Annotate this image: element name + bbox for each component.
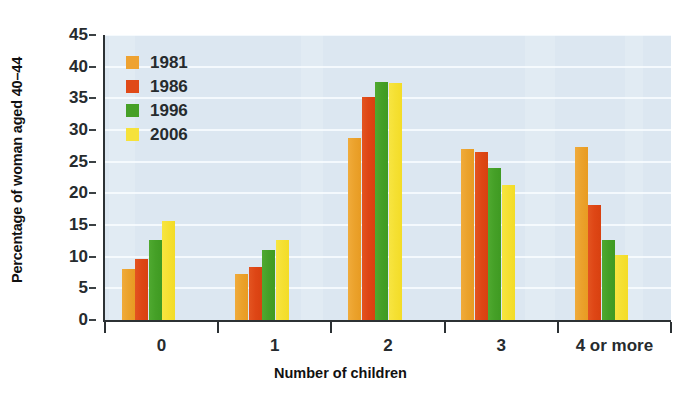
y-tick-mark <box>89 161 96 163</box>
x-tick-mark <box>217 322 219 333</box>
y-tick-label: 25 <box>69 152 88 172</box>
bar <box>362 97 375 320</box>
bar <box>615 255 628 320</box>
legend-item: 2006 <box>126 122 188 146</box>
y-axis-line <box>103 35 105 321</box>
bar-chart: Percentage of woman aged 40–44 051015202… <box>0 0 681 395</box>
x-axis-title: Number of children <box>0 365 681 381</box>
legend-swatch <box>126 104 139 117</box>
legend-swatch <box>126 80 139 93</box>
y-tick-label: 45 <box>69 25 88 45</box>
y-tick-mark <box>89 319 96 321</box>
bar <box>488 168 501 320</box>
legend-item: 1981 <box>126 50 188 74</box>
legend-item: 1986 <box>126 74 188 98</box>
x-tick-mark <box>444 322 446 333</box>
bar <box>375 82 388 320</box>
bar <box>122 269 135 320</box>
background-texture <box>525 35 555 320</box>
y-tick-mark <box>89 287 96 289</box>
y-tick-mark <box>89 66 96 68</box>
x-tick-label: 1 <box>270 336 279 356</box>
y-axis-title-text: Percentage of woman aged 40–44 <box>9 57 25 283</box>
legend-label: 1986 <box>150 78 188 95</box>
legend-swatch <box>126 128 139 141</box>
x-tick-mark <box>670 322 672 333</box>
y-tick-label: 15 <box>69 215 88 235</box>
legend-label: 1981 <box>150 54 188 71</box>
bar <box>575 147 588 320</box>
legend-swatch <box>126 56 139 69</box>
y-tick-label: 40 <box>69 57 88 77</box>
bar <box>262 250 275 320</box>
bar <box>162 221 175 320</box>
y-tick-mark <box>89 34 96 36</box>
x-tick-label: 3 <box>496 336 505 356</box>
bar <box>389 83 402 320</box>
legend-item: 1996 <box>126 98 188 122</box>
y-tick-mark <box>89 192 96 194</box>
legend-label: 2006 <box>150 126 188 143</box>
y-tick-mark <box>89 224 96 226</box>
y-tick-label: 20 <box>69 183 88 203</box>
x-tick-label: 0 <box>157 336 166 356</box>
gridline <box>105 66 671 68</box>
x-tick-label: 2 <box>383 336 392 356</box>
bar <box>502 185 515 320</box>
bar <box>249 267 262 320</box>
x-axis-line <box>103 320 671 322</box>
y-axis-ticks: 051015202530354045 <box>44 0 96 395</box>
y-axis-title: Percentage of woman aged 40–44 <box>0 0 34 340</box>
bar <box>461 149 474 320</box>
background-texture <box>301 35 323 320</box>
bar <box>135 259 148 320</box>
y-tick-label: 5 <box>79 278 88 298</box>
y-tick-mark <box>89 256 96 258</box>
x-tick-mark <box>104 322 106 333</box>
gridline <box>105 35 671 36</box>
y-tick-label: 10 <box>69 247 88 267</box>
x-tick-label: 4 or more <box>576 336 653 356</box>
bar <box>235 274 248 320</box>
y-tick-label: 35 <box>69 88 88 108</box>
bar <box>588 205 601 320</box>
x-axis-title-text: Number of children <box>274 365 407 381</box>
y-tick-mark <box>89 97 96 99</box>
bar <box>276 240 289 320</box>
x-tick-mark <box>330 322 332 333</box>
legend: 1981198619962006 <box>126 50 188 146</box>
bar <box>475 152 488 320</box>
x-tick-mark <box>557 322 559 333</box>
legend-label: 1996 <box>150 102 188 119</box>
y-tick-label: 30 <box>69 120 88 140</box>
bar <box>348 138 361 320</box>
y-tick-label: 0 <box>79 310 88 330</box>
bar <box>602 240 615 320</box>
y-tick-mark <box>89 129 96 131</box>
plot-area <box>105 35 671 320</box>
bar <box>149 240 162 320</box>
